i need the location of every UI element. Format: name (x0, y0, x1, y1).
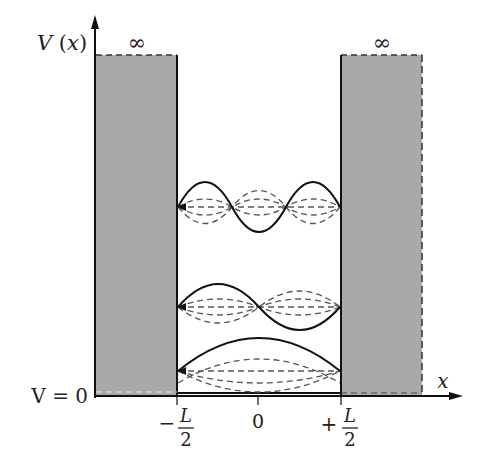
svg-text:+: + (321, 412, 338, 436)
right-infinity-label: ∞ (373, 30, 391, 55)
left-wall (96, 55, 177, 396)
left-infinity-label: ∞ (128, 30, 146, 55)
svg-text:L: L (179, 405, 192, 426)
tick-label-zero: 0 (252, 410, 264, 432)
baseline-label: V = 0 (30, 384, 88, 408)
svg-text:−: − (159, 411, 176, 435)
svg-text:2: 2 (344, 429, 355, 450)
tick-label-minus-half-L: − L 2 (159, 405, 194, 450)
eigenstate-n2 (178, 284, 340, 330)
svg-text:2: 2 (180, 429, 191, 450)
svg-text:L: L (343, 405, 356, 426)
eigenstate-n3 (178, 182, 340, 232)
tick-label-plus-half-L: + L 2 (321, 405, 358, 450)
eigenstate-n1 (178, 338, 340, 392)
x-axis-label: x (437, 369, 448, 393)
right-wall (341, 55, 422, 396)
y-axis-label: V (x) (37, 31, 87, 55)
infinite-square-well-diagram: V (x) ∞ ∞ x V = 0 − L 2 0 + L 2 (0, 0, 486, 472)
